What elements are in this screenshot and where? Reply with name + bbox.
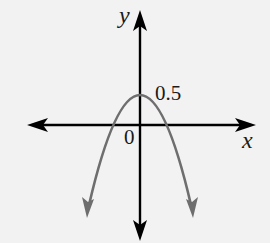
x-axis-label: x (242, 128, 253, 152)
curve-left-arrow-icon (82, 197, 94, 218)
graph-canvas (0, 0, 270, 243)
x-axis (27, 118, 256, 132)
curve-right-arrow-icon (186, 197, 198, 218)
origin-label: 0 (124, 127, 135, 148)
y-intercept-label: 0.5 (155, 83, 181, 104)
y-axis-label: y (119, 3, 130, 27)
